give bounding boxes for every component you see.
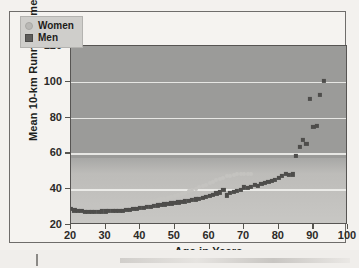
legend-item-men: Men <box>25 32 74 44</box>
x-axis-tick-label: 50 <box>168 229 180 241</box>
y-axis-tick <box>65 81 70 82</box>
x-axis-tick-label: 100 <box>338 229 356 241</box>
square-marker-icon <box>25 34 33 42</box>
data-point-men <box>291 172 295 176</box>
scan-artifact-mark <box>36 254 38 266</box>
y-axis-tick-label: 40 <box>50 182 62 194</box>
x-axis-tick-label: 70 <box>237 229 249 241</box>
scan-artifact-smudge <box>120 258 350 263</box>
y-axis-tick <box>65 188 70 189</box>
data-point-men <box>294 154 298 158</box>
legend-label-women: Women <box>38 20 74 32</box>
y-axis-tick <box>65 224 70 225</box>
y-axis-tick <box>65 117 70 118</box>
gridline <box>71 153 346 155</box>
plot-area <box>70 45 347 224</box>
running-time-scatter-chart: Mean 10-km Running Time (in minutes) Wom… <box>10 12 345 242</box>
figure-frame: Mean 10-km Running Time (in minutes) Wom… <box>9 11 346 243</box>
y-axis-tick-label: 100 <box>44 75 62 87</box>
data-point-men <box>304 141 308 145</box>
data-point-men <box>297 145 301 149</box>
y-axis-tick-label: 20 <box>50 218 62 230</box>
x-axis-tick-label: 30 <box>99 229 111 241</box>
legend-item-women: Women <box>25 20 74 32</box>
circle-marker-icon <box>25 22 33 30</box>
x-axis-tick-label: 20 <box>64 229 76 241</box>
chart-legend: Women Men <box>20 16 83 48</box>
data-point-men <box>318 93 322 97</box>
legend-label-men: Men <box>38 32 58 44</box>
data-point-men <box>322 79 326 83</box>
data-point-women <box>249 172 253 176</box>
gridline <box>71 189 346 191</box>
y-axis-tick <box>65 152 70 153</box>
scanned-page: Mean 10-km Running Time (in minutes) Wom… <box>0 0 359 268</box>
x-axis-tick-label: 40 <box>133 229 145 241</box>
scan-artifact-band <box>0 250 359 268</box>
data-point-men <box>221 188 225 192</box>
y-axis-tick-label: 60 <box>50 146 62 158</box>
data-point-men <box>315 124 319 128</box>
gridline <box>71 82 346 84</box>
data-point-men <box>308 97 312 101</box>
y-axis-tick-label: 80 <box>50 111 62 123</box>
gridline <box>71 118 346 120</box>
x-axis-tick-label: 90 <box>306 229 318 241</box>
x-axis-tick-label: 60 <box>202 229 214 241</box>
x-axis-tick-label: 80 <box>272 229 284 241</box>
